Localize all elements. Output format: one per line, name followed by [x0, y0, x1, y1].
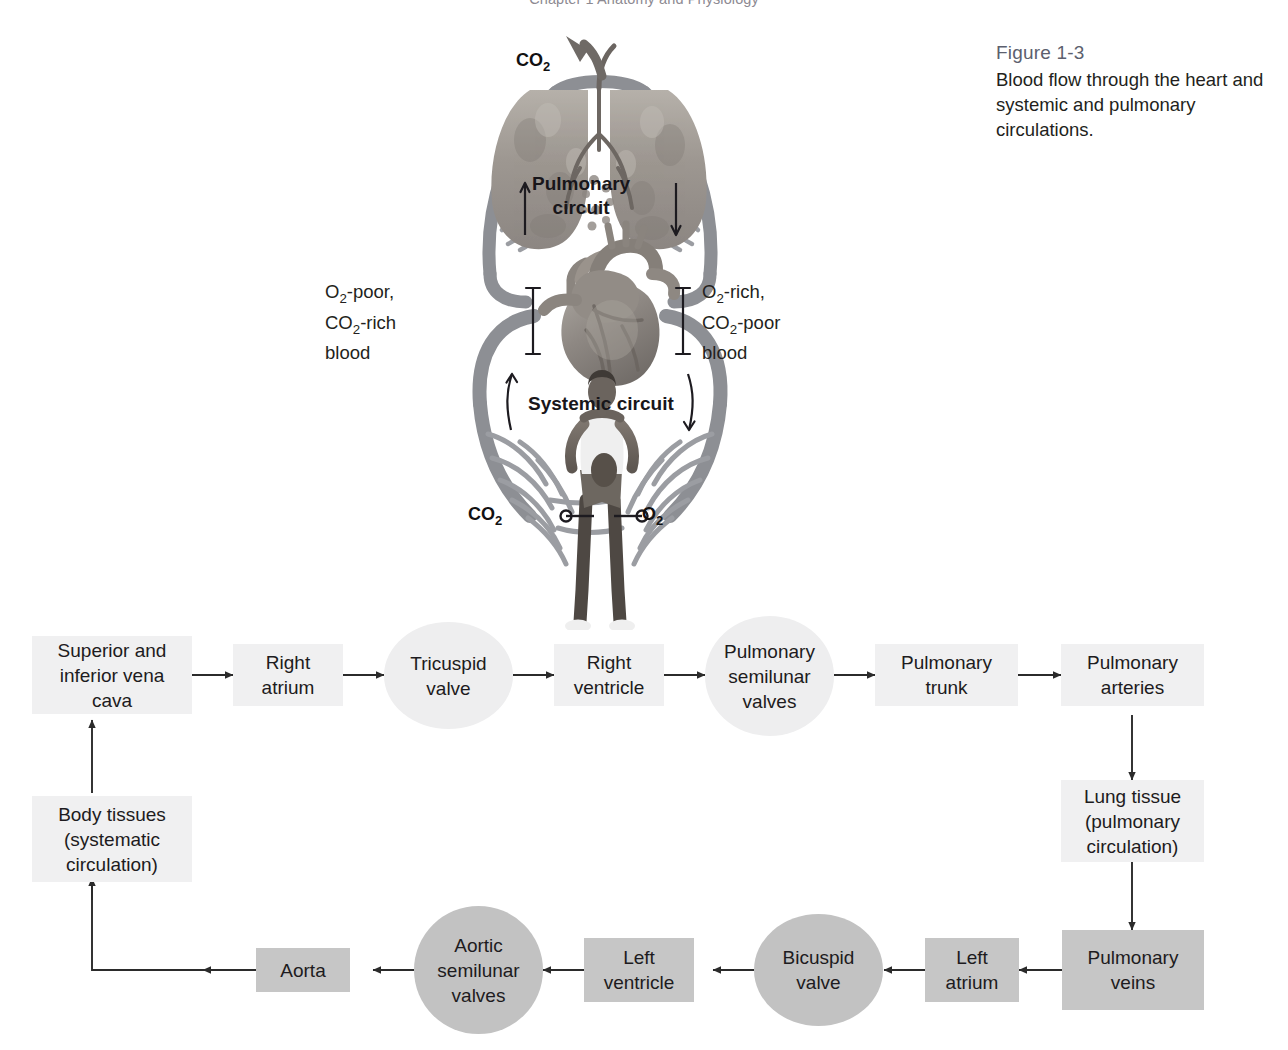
co2-exhale-label: CO2	[516, 50, 550, 74]
figure-number: Figure 1-3	[996, 42, 1276, 64]
flow-node-label: Aortic semilunar valves	[420, 933, 537, 1008]
tissue-o2-label: O2	[642, 504, 663, 528]
flow-node-bicuspid-valve[interactable]: Bicuspid valve	[754, 914, 883, 1026]
flow-node-label: Left atrium	[931, 945, 1013, 995]
flow-node-left-atrium[interactable]: Left atrium	[925, 938, 1019, 1002]
flow-node-tricuspid-valve[interactable]: Tricuspid valve	[384, 622, 513, 729]
tissue-co2-label: CO2	[468, 504, 502, 528]
flow-node-pulmonary-arteries[interactable]: Pulmonary arteries	[1061, 644, 1204, 706]
oxygen-poor-blood-label: O2-poor,CO2-richblood	[325, 280, 396, 365]
running-header: Chapter 1 Anatomy and Physiology	[0, 0, 1288, 7]
pulmonary-circuit-label-line1: Pulmonary	[532, 173, 630, 194]
flow-node-label: Pulmonary arteries	[1067, 650, 1198, 700]
blood-flow-chart: Superior and inferior vena cava Right at…	[0, 600, 1288, 1050]
flow-node-lung-tissue[interactable]: Lung tissue (pulmonary circulation)	[1061, 780, 1204, 862]
flow-node-label: Aorta	[280, 958, 325, 983]
flow-node-label: Lung tissue (pulmonary circulation)	[1067, 784, 1198, 859]
co2-exhale-arrow	[566, 36, 602, 76]
systemic-circuit-label: Systemic circuit	[528, 392, 674, 416]
flow-node-pulmonary-trunk[interactable]: Pulmonary trunk	[875, 644, 1018, 706]
flow-node-label: Pulmonary semilunar valves	[711, 639, 828, 714]
flow-node-label: Left ventricle	[590, 945, 688, 995]
flow-node-label: Body tissues (systematic circulation)	[38, 802, 186, 877]
flow-node-label: Pulmonary trunk	[881, 650, 1012, 700]
circulation-diagram: CO2 Pulmonary circuit Systemic circuit O…	[380, 30, 820, 630]
flow-node-label: Superior and inferior vena cava	[38, 638, 186, 713]
flow-node-pulmonary-veins[interactable]: Pulmonary veins	[1062, 930, 1204, 1010]
pulmonary-circuit-label: Pulmonary circuit	[532, 172, 630, 220]
flow-node-right-atrium[interactable]: Right atrium	[233, 644, 343, 706]
pulmonary-circuit-label-line2: circuit	[553, 197, 610, 218]
flow-node-right-ventricle[interactable]: Right ventricle	[554, 644, 664, 706]
figure-caption-text: Blood flow through the heart and systemi…	[996, 67, 1276, 142]
flow-node-pulmonary-semilunar-valves[interactable]: Pulmonary semilunar valves	[705, 616, 834, 736]
flow-node-body-tissues[interactable]: Body tissues (systematic circulation)	[32, 796, 192, 882]
flow-node-label: Bicuspid valve	[760, 945, 877, 995]
flow-node-aorta[interactable]: Aorta	[256, 948, 350, 992]
flow-node-label: Pulmonary veins	[1068, 945, 1198, 995]
flow-node-left-ventricle[interactable]: Left ventricle	[584, 938, 694, 1002]
flow-node-vena-cava[interactable]: Superior and inferior vena cava	[32, 636, 192, 714]
flow-node-label: Tricuspid valve	[390, 651, 507, 701]
flow-node-label: Right ventricle	[560, 650, 658, 700]
flow-node-aortic-semilunar-valves[interactable]: Aortic semilunar valves	[414, 906, 543, 1034]
flow-node-label: Right atrium	[239, 650, 337, 700]
oxygen-rich-blood-label: O2-rich,CO2-poorblood	[702, 280, 780, 365]
systemic-circuit-label-text: Systemic circuit	[528, 393, 674, 414]
figure-caption: Figure 1-3 Blood flow through the heart …	[996, 42, 1276, 142]
